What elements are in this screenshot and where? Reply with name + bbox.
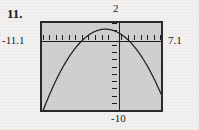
x-axis [42, 35, 161, 41]
window-ymin-label: -10 [111, 112, 126, 124]
exercise-number: 11. [7, 7, 23, 21]
window-xmax-label: 7.1 [168, 34, 182, 46]
graph-svg [42, 23, 161, 110]
y-axis-ticks [112, 24, 116, 111]
window-ymax-label: 2 [113, 2, 119, 14]
window-xmin-label: -11.1 [2, 34, 25, 46]
x-axis-ticks [44, 35, 161, 39]
figure-page: 11. 2 -11.1 7.1 -10 [0, 0, 199, 130]
y-axis [112, 23, 119, 110]
plot-area [42, 23, 161, 110]
calculator-screen [40, 21, 163, 112]
